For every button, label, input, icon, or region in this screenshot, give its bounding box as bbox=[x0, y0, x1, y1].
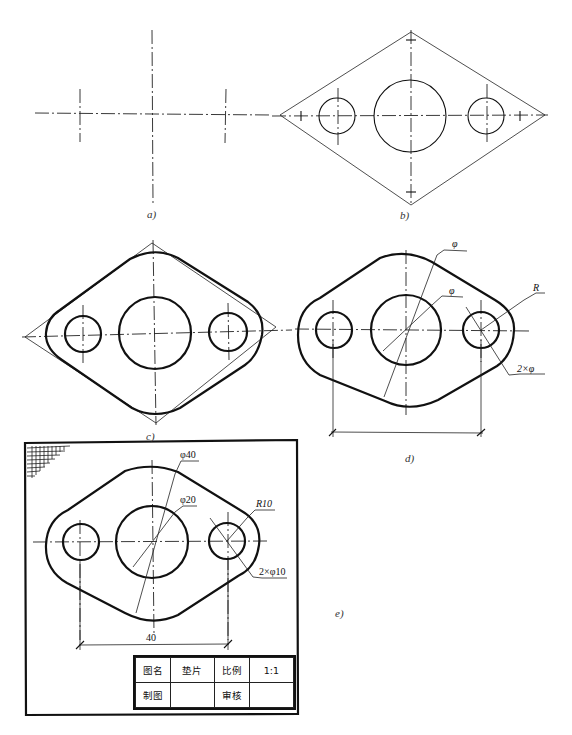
tb-check-value bbox=[249, 683, 293, 708]
tb-name-value: 垫片 bbox=[170, 658, 214, 683]
e-center-distance-label: 40 bbox=[146, 632, 156, 643]
tb-drawn-label: 制图 bbox=[136, 683, 171, 708]
label-e: e) bbox=[335, 607, 344, 619]
label-b: b) bbox=[400, 209, 409, 221]
e-inner-dia-label: φ20 bbox=[180, 494, 196, 505]
tb-scale-label: 比例 bbox=[214, 658, 249, 683]
e-radius-label: R10 bbox=[256, 498, 272, 509]
d-radius-label: R bbox=[533, 282, 539, 293]
tb-check-label: 审核 bbox=[214, 683, 249, 708]
e-outer-dia-label: φ40 bbox=[180, 449, 196, 460]
tb-scale-value: 1:1 bbox=[249, 658, 293, 683]
d-holes-label: 2×φ bbox=[517, 363, 534, 374]
tb-name-label: 图名 bbox=[136, 658, 171, 683]
label-d: d) bbox=[405, 452, 414, 464]
title-block: 图名 垫片 比例 1:1 制图 审核 bbox=[133, 655, 296, 710]
e-holes-label: 2×φ10 bbox=[259, 566, 285, 577]
d-outer-dia-label: φ bbox=[452, 238, 458, 249]
tb-drawn-value bbox=[170, 683, 214, 708]
corner-hatch bbox=[27, 446, 70, 478]
label-c: c) bbox=[146, 430, 155, 442]
drawing-canvas: .cl{stroke:#222;stroke-width:0.9;fill:no… bbox=[0, 0, 572, 735]
subfig-c-outline bbox=[22, 240, 292, 425]
label-a: a) bbox=[147, 208, 156, 220]
subfig-a-centerlines bbox=[35, 30, 272, 203]
subfig-d-dimensioning bbox=[295, 250, 545, 437]
subfig-b-construction bbox=[272, 30, 548, 206]
d-inner-dia-label: φ bbox=[449, 285, 455, 296]
